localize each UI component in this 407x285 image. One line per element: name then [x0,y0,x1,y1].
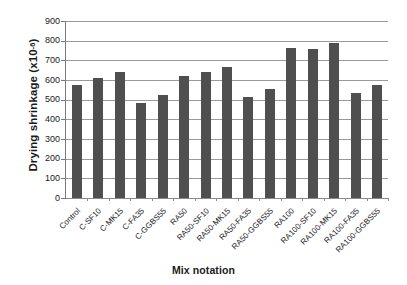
x-tick-mark [216,198,217,201]
bar[interactable] [372,85,382,198]
bar[interactable] [115,72,125,198]
bar[interactable] [72,85,82,198]
bar[interactable] [179,76,189,198]
x-tick-mark [195,198,196,201]
bars-layer [66,21,388,198]
x-tick-mark [281,198,282,201]
y-tick-label-400: 400 [30,115,60,124]
y-tick-label-600: 600 [30,76,60,85]
x-tick-mark [238,198,239,201]
x-tick-mark [130,198,131,201]
x-tick-mark [388,198,389,201]
bar[interactable] [351,93,361,198]
y-tick-mark-700 [61,60,65,61]
x-tick-mark [324,198,325,201]
y-tick-mark-900 [61,21,65,22]
y-tick-mark-800 [61,41,65,42]
y-tick-mark-600 [61,80,65,81]
y-tick-label-200: 200 [30,154,60,163]
y-tick-mark-400 [61,119,65,120]
y-tick-label-300: 300 [30,135,60,144]
y-tick-label-900: 900 [30,17,60,26]
bar[interactable] [308,49,318,198]
y-tick-label-0: 0 [30,194,60,203]
y-tick-mark-0 [61,198,65,199]
y-tick-mark-100 [61,178,65,179]
x-axis-title: Mix notation [0,264,407,276]
y-tick-label-500: 500 [30,95,60,104]
y-tick-mark-200 [61,159,65,160]
x-tick-mark [345,198,346,201]
bar[interactable] [158,95,168,198]
y-axis-tick-labels: 9008007006005004003002001000 [28,21,60,198]
x-tick-mark [367,198,368,201]
bar[interactable] [265,89,275,198]
bar[interactable] [201,72,211,198]
y-tick-label-800: 800 [30,36,60,45]
drying-shrinkage-bar-chart: Drying shrinkage (x10-6) 900800700600500… [0,0,407,285]
bar[interactable] [93,78,103,198]
bar[interactable] [136,103,146,198]
x-tick-mark [109,198,110,201]
bar[interactable] [222,67,232,198]
y-tick-mark-300 [61,139,65,140]
bar[interactable] [329,43,339,198]
x-tick-mark [152,198,153,201]
bar[interactable] [286,48,296,198]
y-tick-mark-500 [61,100,65,101]
x-tick-mark [259,198,260,201]
y-tick-label-700: 700 [30,56,60,65]
bar[interactable] [243,97,253,198]
x-axis-tick-marks [66,198,388,202]
y-tick-label-100: 100 [30,174,60,183]
x-tick-mark [302,198,303,201]
x-tick-mark [173,198,174,201]
x-tick-mark [87,198,88,201]
